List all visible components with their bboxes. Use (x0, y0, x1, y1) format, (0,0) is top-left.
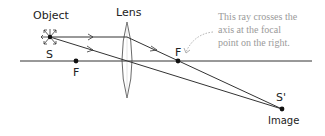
source-label: S (46, 48, 53, 61)
lens-label: Lens (116, 6, 142, 19)
annotation-line-3: point on the right. (218, 37, 290, 48)
annotation-line-1: This ray crosses the (218, 11, 298, 22)
focal-left-label: F (73, 66, 79, 79)
thin-lens-ray-diagram: Object S Lens F F S' Image This ray cros… (0, 0, 325, 136)
annotation-line-2: axis at the focal (218, 24, 281, 35)
focal-right-label: F (175, 46, 181, 59)
image-point-label: S' (276, 91, 286, 104)
focal-point-left (74, 59, 79, 64)
object-point (48, 35, 52, 39)
annotation-pointer (186, 32, 213, 52)
image-label: Image (268, 115, 299, 126)
object-label: Object (33, 9, 70, 22)
focal-point-right (176, 59, 181, 64)
image-point (280, 107, 285, 112)
